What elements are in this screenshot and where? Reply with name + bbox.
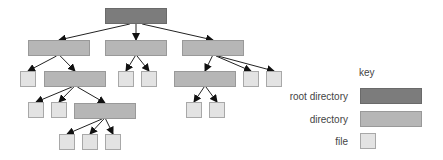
- key-swatch-file: [360, 133, 376, 149]
- arrow-edge: [194, 87, 204, 102]
- file-node: [266, 71, 282, 87]
- key-swatch-root: [360, 88, 422, 104]
- directory-node: [105, 40, 167, 56]
- directory-node: [74, 103, 136, 119]
- directory-node: [174, 71, 236, 87]
- arrow-edge: [77, 87, 105, 103]
- arrow-edge: [28, 56, 57, 71]
- key-swatch-directory: [360, 111, 422, 127]
- directory-node: [44, 71, 106, 87]
- arrow-edge: [106, 119, 113, 134]
- directory-node: [28, 40, 90, 56]
- arrow-edge: [205, 56, 212, 71]
- file-node: [59, 134, 75, 150]
- file-node: [118, 71, 134, 87]
- arrow-edge: [137, 56, 149, 71]
- key-label-root: root directory: [268, 91, 348, 102]
- file-node: [243, 71, 259, 87]
- file-node: [20, 71, 36, 87]
- root-node: [105, 8, 167, 24]
- key-label-directory: directory: [268, 114, 348, 125]
- file-node: [186, 102, 202, 118]
- file-node: [209, 102, 225, 118]
- file-node: [82, 134, 98, 150]
- file-node: [105, 134, 121, 150]
- directory-node: [182, 40, 244, 56]
- arrow-edge: [206, 87, 217, 102]
- arrow-edge: [60, 56, 75, 71]
- file-node: [141, 71, 157, 87]
- arrow-edge: [59, 24, 130, 40]
- arrow-edge: [126, 56, 135, 71]
- file-node: [28, 102, 44, 118]
- file-node: [51, 102, 67, 118]
- arrow-edge: [142, 24, 213, 40]
- key-label-file: file: [268, 136, 348, 147]
- key-title: key: [359, 67, 375, 78]
